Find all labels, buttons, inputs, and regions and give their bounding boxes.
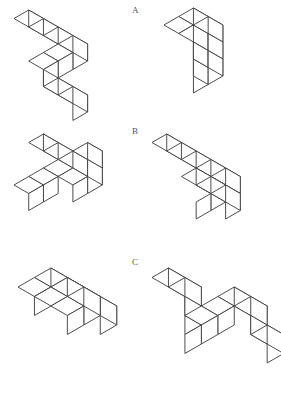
cube-figures-page: A B C bbox=[0, 0, 281, 405]
figure-a-left bbox=[12, 8, 90, 123]
row-label-a: A bbox=[132, 6, 139, 15]
figure-c-left bbox=[16, 266, 119, 337]
figure-b-left bbox=[12, 132, 104, 213]
row-label-c: C bbox=[132, 258, 138, 267]
figure-c-right bbox=[150, 266, 281, 365]
figure-b-right bbox=[150, 132, 242, 221]
figure-a-right bbox=[162, 6, 225, 95]
row-label-b: B bbox=[132, 127, 138, 136]
